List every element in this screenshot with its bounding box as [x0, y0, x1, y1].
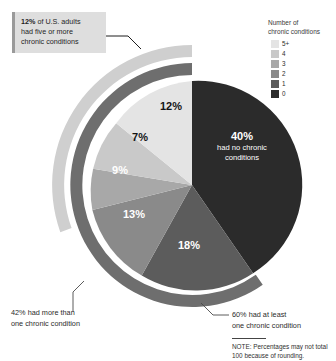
legend-item-5plus[interactable]: 5+ — [271, 40, 320, 49]
legend-swatch-2 — [271, 70, 279, 78]
legend-title-line-1: Number of — [268, 19, 320, 28]
legend-swatch-4 — [271, 50, 279, 58]
annotation-42-line-1: 42% had more than — [11, 308, 80, 319]
callout-line-1-rest: of U.S. adults — [35, 17, 80, 26]
legend: Number of chronic conditions 5+ 4 3 2 — [268, 19, 320, 99]
leader-line-callout-12 — [103, 36, 141, 49]
callout-line-2: had five or more — [21, 27, 101, 37]
legend-item-4[interactable]: 4 — [271, 50, 320, 59]
annotation-42-percent: 42% had more than one chronic condition — [11, 308, 80, 329]
legend-title: Number of chronic conditions — [268, 19, 320, 37]
legend-label-2: 2 — [282, 71, 286, 77]
annotation-60-line-1: 60% had at least — [232, 310, 301, 321]
legend-label-5plus: 5+ — [282, 41, 289, 47]
chart-note: NOTE: Percentages may not total 100 beca… — [232, 338, 328, 361]
legend-title-line-2: chronic conditions — [268, 28, 320, 37]
legend-label-0: 0 — [282, 91, 286, 97]
annotation-60-line-2: one chronic condition — [232, 321, 301, 332]
callout-line-3: chronic conditions — [21, 37, 101, 47]
legend-swatch-1 — [271, 80, 279, 88]
note-divider — [232, 338, 266, 339]
legend-swatch-3 — [271, 60, 279, 68]
legend-item-3[interactable]: 3 — [271, 60, 320, 69]
callout-box-five-or-more: 12% of U.S. adults had five or more chro… — [12, 12, 106, 53]
note-line-2: 100 because of rounding. — [232, 351, 328, 360]
note-line-1: NOTE: Percentages may not total — [232, 342, 328, 351]
callout-emphasis: 12% — [21, 17, 35, 26]
legend-item-2[interactable]: 2 — [271, 70, 320, 79]
legend-label-4: 4 — [282, 51, 286, 57]
legend-label-3: 3 — [282, 61, 286, 67]
annotation-60-percent: 60% had at least one chronic condition — [232, 310, 301, 331]
legend-items: 5+ 4 3 2 1 0 — [271, 40, 320, 99]
legend-label-1: 1 — [282, 81, 286, 87]
annotation-42-line-2: one chronic condition — [11, 319, 80, 330]
legend-swatch-0 — [271, 90, 279, 98]
callout-line-1: 12% of U.S. adults — [21, 17, 101, 27]
legend-item-1[interactable]: 1 — [271, 80, 320, 89]
legend-item-0[interactable]: 0 — [271, 90, 320, 99]
legend-swatch-5plus — [271, 40, 279, 48]
